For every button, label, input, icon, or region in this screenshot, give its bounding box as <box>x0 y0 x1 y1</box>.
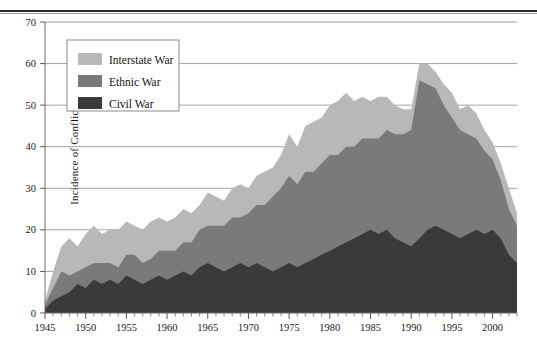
y-tick-group: 010203040506070 <box>26 17 46 319</box>
x-tick-label-1980: 1980 <box>319 322 340 333</box>
x-tick-label-1955: 1955 <box>116 322 137 333</box>
figure-container: Incidence of Conflict 010203040506070 19… <box>0 0 537 343</box>
stacked-area-chart: 010203040506070 194519501955196019651970… <box>0 15 537 343</box>
x-tick-label-1995: 1995 <box>441 322 462 333</box>
top-rule-thin <box>0 13 537 14</box>
y-tick-label-40: 40 <box>26 141 37 152</box>
legend-label-interstate-war: Interstate War <box>109 54 173 66</box>
legend-swatch-ethnic-war <box>78 75 102 87</box>
y-tick-label-10: 10 <box>26 266 37 277</box>
x-tick-group: 1945195019551960196519701975198019851990… <box>35 313 518 333</box>
legend-label-ethnic-war: Ethnic War <box>109 76 161 88</box>
y-tick-label-60: 60 <box>26 58 37 69</box>
x-tick-label-1985: 1985 <box>360 322 381 333</box>
y-tick-label-70: 70 <box>26 17 37 28</box>
chart-area: 010203040506070 194519501955196019651970… <box>0 15 537 343</box>
legend-group: Interstate WarEthnic WarCivil War <box>67 40 179 111</box>
top-rule-thick <box>0 10 537 12</box>
x-tick-label-1990: 1990 <box>401 322 422 333</box>
x-tick-label-1950: 1950 <box>75 322 96 333</box>
x-tick-label-2000: 2000 <box>482 322 503 333</box>
y-tick-label-0: 0 <box>31 308 36 319</box>
legend-swatch-civil-war <box>78 97 102 109</box>
x-tick-label-1975: 1975 <box>279 322 300 333</box>
y-tick-label-20: 20 <box>26 224 37 235</box>
x-tick-label-1970: 1970 <box>238 322 259 333</box>
x-tick-label-1960: 1960 <box>157 322 178 333</box>
y-tick-label-30: 30 <box>26 183 37 194</box>
legend-swatch-interstate-war <box>78 53 102 65</box>
y-tick-label-50: 50 <box>26 100 37 111</box>
x-tick-label-1945: 1945 <box>35 322 56 333</box>
x-tick-label-1965: 1965 <box>197 322 218 333</box>
legend-label-civil-war: Civil War <box>109 98 154 110</box>
